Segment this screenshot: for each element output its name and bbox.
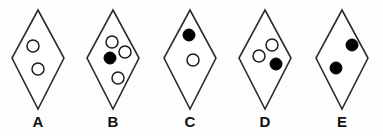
filled-dot-c-1 [183,29,195,41]
open-dot-c-2 [187,54,199,66]
open-dot-d-1 [266,39,278,51]
diamond-outline-e [316,10,368,109]
option-label-b: B [108,113,119,130]
filled-dot-d-3 [270,58,282,70]
filled-dot-b-3 [104,52,116,64]
option-label-a: A [33,113,44,130]
diamond-outline-a [12,10,64,109]
diamond-options-figure: ABCDE [0,0,383,136]
open-dot-b-4 [112,72,124,84]
filled-dot-e-1 [346,39,358,51]
filled-dot-e-2 [330,62,342,74]
open-dot-b-2 [119,46,131,58]
figure-canvas: ABCDE [0,0,383,136]
diamond-option-c[interactable]: C [164,10,216,130]
open-dot-b-1 [106,36,118,48]
diamond-option-d[interactable]: D [239,10,291,130]
open-dot-a-2 [32,63,44,75]
options-group: ABCDE [12,10,368,130]
option-label-e: E [337,113,347,130]
open-dot-a-1 [27,40,39,52]
diamond-option-b[interactable]: B [87,10,139,130]
open-dot-d-2 [253,50,265,62]
option-label-d: D [260,113,271,130]
diamond-option-e[interactable]: E [316,10,368,130]
diamond-option-a[interactable]: A [12,10,64,130]
diamond-outline-d [239,10,291,109]
option-label-c: C [185,113,196,130]
